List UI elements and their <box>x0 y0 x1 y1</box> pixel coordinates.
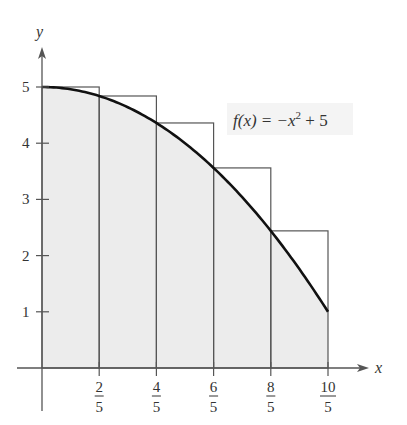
function-label-suffix: + 5 <box>301 111 328 130</box>
function-label-prefix: f(x) = −x <box>233 111 296 130</box>
y-tick-label-2: 2 <box>22 248 30 264</box>
riemann-sum-chart: x y 1234525456585105 f(x) = −x2 + 5 <box>0 0 407 425</box>
function-label: f(x) = −x2 + 5 <box>227 103 353 135</box>
x-tick-denominator: 5 <box>153 399 161 415</box>
y-tick-label-4: 4 <box>22 135 30 151</box>
x-tick-numerator: 4 <box>153 379 161 395</box>
x-tick-denominator: 5 <box>210 399 218 415</box>
y-tick-label-5: 5 <box>22 79 30 95</box>
x-tick-numerator: 10 <box>321 379 336 395</box>
x-tick-denominator: 5 <box>95 399 103 415</box>
y-axis-label: y <box>34 23 44 41</box>
y-tick-label-1: 1 <box>22 304 30 320</box>
x-axis-label: x <box>374 359 382 376</box>
function-label-text: f(x) = −x2 + 5 <box>233 109 328 130</box>
x-tick-numerator: 2 <box>95 379 103 395</box>
x-tick-denominator: 5 <box>324 399 332 415</box>
x-tick-numerator: 6 <box>210 379 218 395</box>
x-tick-numerator: 8 <box>267 379 275 395</box>
y-tick-label-3: 3 <box>22 191 30 207</box>
x-tick-denominator: 5 <box>267 399 275 415</box>
